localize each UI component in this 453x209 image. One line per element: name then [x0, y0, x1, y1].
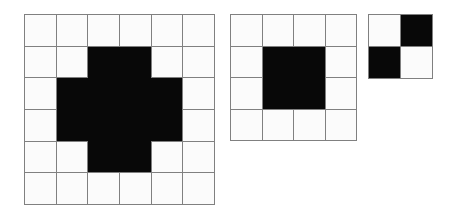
grid-cell: [183, 47, 214, 78]
filled-region-join: [119, 78, 120, 109]
grid-cell: [183, 142, 214, 173]
checkerboard-grid: [368, 14, 433, 79]
grid-cell: [183, 173, 214, 204]
grid-cell: [25, 142, 56, 173]
filled-region-join: [88, 77, 119, 78]
filled-region-join: [87, 110, 88, 141]
grid-cell: [25, 78, 56, 109]
grid-cell: [294, 78, 325, 109]
grid-cell: [120, 110, 151, 141]
grid-cell: [57, 47, 88, 78]
filled-region-join: [119, 142, 120, 173]
grid-cell: [25, 15, 56, 46]
filled-region-join: [293, 47, 294, 78]
grid-cell: [369, 15, 400, 46]
grid-cell: [120, 173, 151, 204]
grid-cell: [152, 110, 183, 141]
filled-region-join: [119, 110, 120, 141]
grid-cell: [326, 47, 357, 78]
grid-cell: [120, 142, 151, 173]
filled-region-join: [87, 78, 88, 109]
grid-cell: [294, 15, 325, 46]
filled-region-join: [57, 109, 88, 110]
grid-cell: [120, 15, 151, 46]
grid-cell: [25, 110, 56, 141]
grid-cell: [231, 78, 262, 109]
filled-region-join: [293, 78, 294, 109]
grid-cell: [183, 110, 214, 141]
filled-region-join: [88, 109, 119, 110]
filled-region-join: [120, 109, 151, 110]
grid-cell: [326, 78, 357, 109]
grid-cell: [231, 110, 262, 141]
grid-cell: [231, 47, 262, 78]
figure-canvas: [0, 0, 453, 209]
grid-cell: [120, 78, 151, 109]
grid-cell: [57, 15, 88, 46]
grid-cell: [88, 15, 119, 46]
grid-cell: [326, 110, 357, 141]
grid-cell: [183, 15, 214, 46]
grid-cell: [25, 47, 56, 78]
grid-cell: [57, 173, 88, 204]
grid-cell: [57, 142, 88, 173]
grid-cell: [401, 15, 432, 46]
filled-region-join: [119, 47, 120, 78]
grid-cell: [263, 78, 294, 109]
grid-cell: [88, 47, 119, 78]
grid-cell: [88, 173, 119, 204]
filled-region-join: [120, 141, 151, 142]
filled-region-join: [294, 77, 325, 78]
grid-cell: [57, 110, 88, 141]
grid-cell: [152, 142, 183, 173]
grid-cell: [152, 47, 183, 78]
grid-cell: [88, 142, 119, 173]
grid-cell: [120, 47, 151, 78]
plus-shape-grid: [24, 14, 215, 205]
grid-cell: [263, 47, 294, 78]
square-block-grid: [230, 14, 357, 141]
filled-region-join: [263, 77, 294, 78]
filled-region-join: [151, 78, 152, 109]
grid-cell: [152, 78, 183, 109]
grid-cell: [152, 15, 183, 46]
grid-cell: [88, 110, 119, 141]
grid-cell: [369, 47, 400, 78]
grid-cell: [326, 15, 357, 46]
grid-cell: [263, 15, 294, 46]
filled-region-join: [120, 77, 151, 78]
grid-cell: [88, 78, 119, 109]
grid-cell: [25, 173, 56, 204]
grid-cell: [57, 78, 88, 109]
grid-cell: [294, 47, 325, 78]
filled-region-join: [152, 109, 183, 110]
grid-cell: [231, 15, 262, 46]
grid-cell: [401, 47, 432, 78]
filled-region-join: [151, 110, 152, 141]
grid-cell: [152, 173, 183, 204]
filled-region-join: [88, 141, 119, 142]
grid-cell: [183, 78, 214, 109]
grid-cell: [263, 110, 294, 141]
grid-cell: [294, 110, 325, 141]
